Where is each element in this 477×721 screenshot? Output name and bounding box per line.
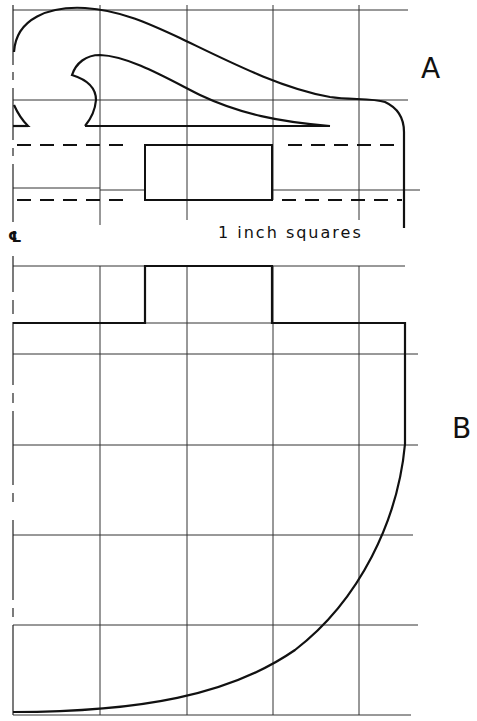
scale-note: 1 inch squares <box>218 223 363 242</box>
part-a-dashed-lines <box>17 145 402 200</box>
part-b-grid <box>13 266 418 715</box>
centerline-symbol: ℄ <box>8 228 21 246</box>
part-a-outline <box>13 8 404 228</box>
pattern-drawing <box>0 0 477 721</box>
part-a-slot <box>145 145 272 200</box>
part-a-grid <box>13 5 420 225</box>
part-a-label: A <box>421 52 440 85</box>
part-b-label: B <box>452 412 471 445</box>
part-b-outline <box>13 266 405 712</box>
